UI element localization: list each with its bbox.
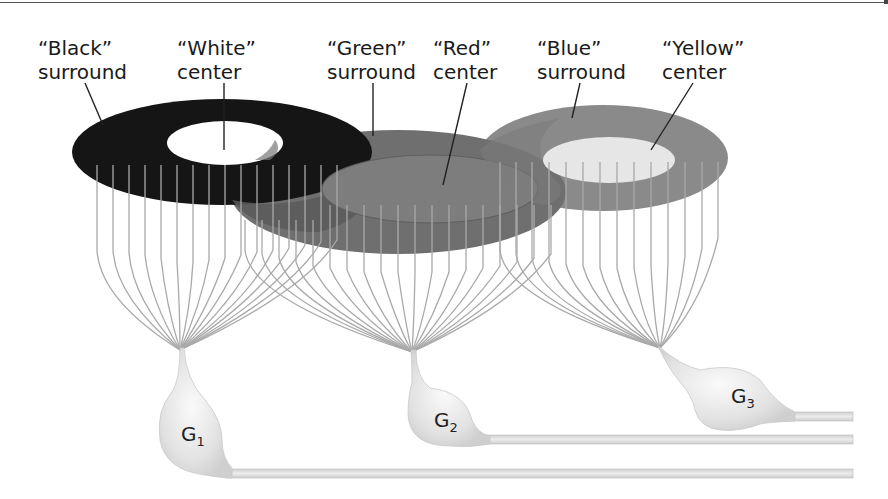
ganglion-cell-g1: G1 — [159, 348, 232, 478]
axon-g2 — [470, 435, 853, 444]
ganglion-cell-g3: G3 — [658, 346, 795, 430]
leader-black — [85, 83, 103, 125]
ganglion-cell-g2: G2 — [408, 350, 490, 447]
axon-g1 — [225, 469, 853, 478]
receptive-field-diagram: G1 G2 G3 — [0, 0, 888, 499]
